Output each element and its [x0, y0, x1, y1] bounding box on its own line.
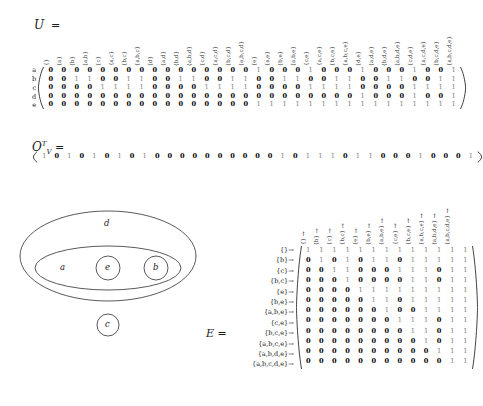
matrix-cell: 0	[101, 153, 114, 160]
column-header-label: {b,e}	[278, 51, 283, 66]
matrix-cell: 1	[330, 76, 343, 83]
matrix-cell: 1	[406, 297, 419, 304]
column-header: ↑{b,e}	[362, 223, 375, 245]
matrix-cell: 1	[406, 328, 419, 335]
matrix-cell: 1	[465, 153, 478, 160]
matrix-cell: 0	[302, 358, 315, 365]
matrix-cell: 1	[420, 317, 433, 324]
matrix-cell: 1	[446, 247, 459, 254]
matrix-cell: 1	[315, 247, 328, 254]
matrix-cell: 0	[226, 93, 239, 100]
matrix-cell: 0	[76, 153, 89, 160]
matrix-cell: 1	[459, 317, 472, 324]
vector-ov-body: 10101010100000000001011101100010001	[32, 151, 483, 163]
matrix-cell: 0	[96, 67, 109, 74]
matrix-cell: 0	[302, 317, 315, 324]
matrix-cell: 0	[434, 93, 447, 100]
matrix-cell: 0	[421, 76, 434, 83]
matrix-cell: 1	[113, 153, 126, 160]
column-header: {a,b,e}	[287, 46, 300, 66]
matrix-cell: 1	[447, 76, 460, 83]
matrix-cell: 1	[446, 287, 459, 294]
matrix-cell: 0	[200, 76, 213, 83]
matrix-cell: 0	[44, 76, 57, 83]
column-header-label: {b,d,e}	[382, 46, 387, 66]
matrix-cell: 0	[406, 348, 419, 355]
matrix-row: 0001000011011	[302, 275, 472, 285]
column-header-label: {a,b,d,e}	[432, 220, 437, 245]
column-header-label: {a,e}	[265, 51, 270, 66]
matrix-cell: 0	[289, 153, 302, 160]
matrix-cell: 0	[367, 277, 380, 284]
column-header-label: {b}	[70, 56, 75, 66]
matrix-u-cells: 0000000000000000100010001000100100110011…	[44, 66, 460, 110]
matrix-cell: 1	[341, 277, 354, 284]
column-header: {a,c,d,e}	[417, 41, 430, 66]
matrix-cell: 0	[148, 76, 161, 83]
matrix-cell: 0	[44, 93, 57, 100]
matrix-cell: 1	[315, 257, 328, 264]
matrix-row: 0000001001111	[302, 306, 472, 316]
column-header-arrow-icon: ↑	[314, 228, 319, 234]
matrix-cell: 0	[189, 153, 202, 160]
matrix-cell: 0	[380, 317, 393, 324]
matrix-cell: 0	[161, 101, 174, 108]
column-header-label: {a,b,c}	[135, 46, 140, 66]
column-header: {b,e}	[274, 51, 287, 66]
matrix-cell: 0	[239, 153, 252, 160]
column-header-label: {a,c}	[109, 51, 114, 66]
matrix-cell: 1	[367, 257, 380, 264]
matrix-cell: 1	[446, 277, 459, 284]
matrix-cell: 0	[302, 287, 315, 294]
column-header-label: {a,b,c,e}	[419, 220, 424, 245]
column-header: {a,b,c,d,e}	[443, 36, 456, 66]
matrix-cell: 0	[382, 84, 395, 91]
column-header: {}	[40, 59, 53, 66]
matrix-cell: 0	[57, 93, 70, 100]
matrix-cell: 1	[406, 277, 419, 284]
matrix-cell: 0	[187, 101, 200, 108]
matrix-cell: 1	[226, 76, 239, 83]
matrix-cell: 0	[433, 328, 446, 335]
matrix-cell: 0	[96, 76, 109, 83]
column-header: {b,c,d}	[222, 46, 235, 66]
column-header: ↑{c}	[323, 228, 336, 245]
matrix-cell: 1	[459, 348, 472, 355]
matrix-cell: 0	[367, 328, 380, 335]
matrix-cell: 0	[174, 84, 187, 91]
matrix-cell: 0	[421, 93, 434, 100]
matrix-cell: 0	[341, 297, 354, 304]
matrix-cell: 1	[459, 277, 472, 284]
matrix-cell: 1	[433, 297, 446, 304]
row-label: {}→	[252, 245, 294, 255]
matrix-cell: 1	[328, 247, 341, 254]
matrix-cell: 1	[83, 76, 96, 83]
column-header-label: {e}	[252, 56, 257, 66]
matrix-cell: 1	[367, 287, 380, 294]
matrix-cell: 1	[420, 307, 433, 314]
column-header-label: {e}	[353, 235, 358, 245]
matrix-cell: 1	[291, 101, 304, 108]
column-header: {b}	[66, 56, 79, 66]
matrix-cell: 0	[382, 93, 395, 100]
matrix-cell: 1	[367, 297, 380, 304]
matrix-cell: 0	[57, 67, 70, 74]
matrix-cell: 0	[317, 93, 330, 100]
matrix-cell: 0	[393, 358, 406, 365]
matrix-cell: 1	[459, 247, 472, 254]
matrix-cell: 0	[83, 67, 96, 74]
matrix-cell: 0	[393, 297, 406, 304]
matrix-e-cells: 1111111111111010101101111100110001110110…	[302, 245, 472, 370]
matrix-cell: 0	[57, 76, 70, 83]
matrix-row: 00000000000000000000000010001001	[44, 92, 460, 101]
column-header-label: {d}	[148, 56, 153, 66]
column-header-arrow-icon: ↑	[393, 223, 398, 229]
column-header-label: {}	[44, 59, 49, 66]
matrix-cell: 0	[174, 93, 187, 100]
column-header: {c,e}	[300, 51, 313, 66]
matrix-cell: 0	[420, 358, 433, 365]
column-header: {b,c,d,e}	[430, 41, 443, 66]
matrix-cell: 0	[393, 338, 406, 345]
row-label: {c,e}→	[252, 318, 294, 328]
matrix-cell: 0	[161, 67, 174, 74]
